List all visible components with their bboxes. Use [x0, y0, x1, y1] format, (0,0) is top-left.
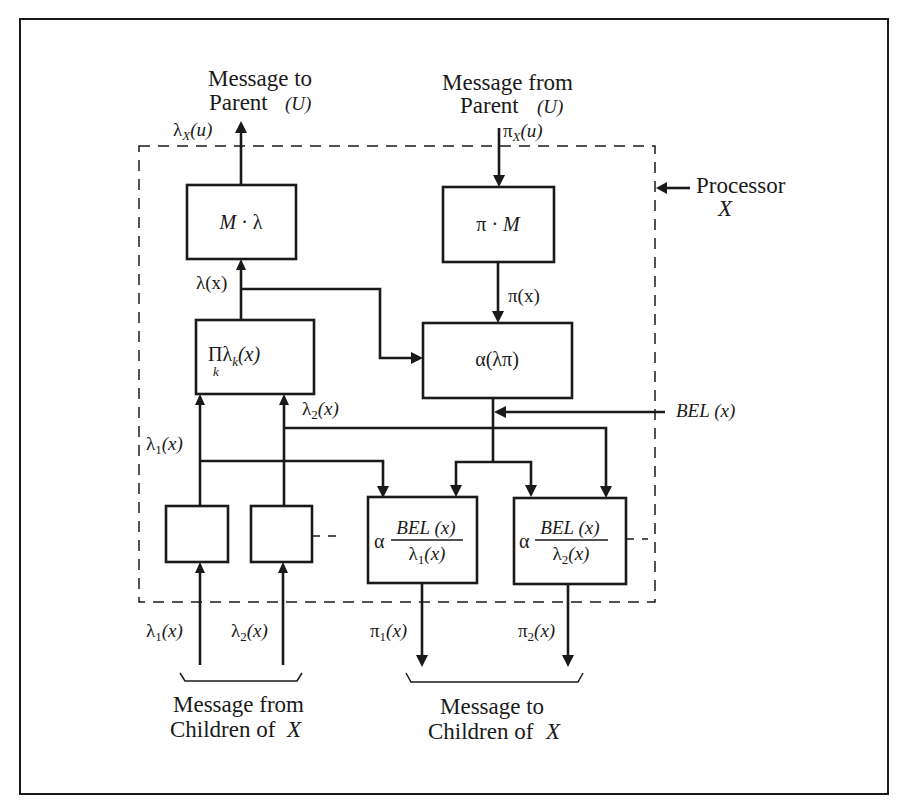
numerator: BEL (x) [540, 517, 599, 539]
alpha-symbol: α [374, 530, 385, 552]
pi-m-box: π · M [443, 187, 554, 262]
arrow-left-icon [494, 406, 506, 418]
denominator: λ2(x) [553, 543, 590, 567]
message-from-parent-header: Message from Parent (U) πX(u) [442, 70, 573, 144]
pi-m-text: π · M [476, 213, 521, 235]
arrow-up-icon [236, 259, 246, 270]
arrow-down-icon [525, 485, 537, 497]
arrow-right-icon [411, 352, 423, 364]
header-line2: Parent [460, 93, 519, 118]
alpha-symbol: α [519, 530, 530, 552]
header-var: (U) [285, 93, 311, 115]
product-index: k [213, 364, 219, 379]
processor-label-text: Processor [696, 173, 786, 198]
arrow-up-icon [279, 394, 289, 405]
header-line1: Message to [208, 66, 312, 91]
header-line1: Message from [442, 70, 573, 95]
arrow-up-icon [195, 394, 205, 405]
arrow-down-icon [492, 311, 504, 323]
product-box: Πλk(x) k [196, 320, 314, 394]
m-lambda-box: M · λ [187, 185, 296, 259]
alpha-lambda-pi-text: α(λπ) [475, 348, 519, 371]
arrow-left-icon [656, 182, 667, 194]
pi-x-u-label: πX(u) [503, 120, 543, 144]
message-to-children-caption: Message to Children of X [428, 694, 561, 744]
arrow-up-icon [195, 562, 205, 573]
processor-diagram: Processor X Message to Parent (U) λX(u) … [0, 0, 899, 807]
brace-children-input [180, 673, 302, 681]
arrow-down-icon [450, 485, 462, 497]
pi-x-label: π(x) [508, 285, 540, 307]
child1-input-box [166, 506, 228, 562]
message-from-children-caption: Message from Children of X [170, 692, 304, 742]
lambda1-inner-label: λ1(x) [146, 433, 183, 457]
lambda1-input-label: λ1(x) [146, 620, 183, 644]
lambda-x-label: λ(x) [196, 272, 227, 294]
pi1-output-label: π1(x) [370, 620, 407, 644]
caption-line1: Message to [440, 694, 544, 719]
caption-line2: Children of [170, 717, 276, 742]
m-lambda-text: M · λ [218, 211, 262, 233]
brace-children-output [406, 673, 583, 682]
child2-input-box [251, 506, 312, 562]
lambda2-input-label: λ2(x) [231, 620, 268, 644]
arrow-up-icon [235, 121, 247, 133]
lambda-x-u-label: λX(u) [173, 119, 212, 143]
arrow-down-icon [493, 175, 505, 187]
outer-frame [20, 19, 888, 794]
arrow-down-icon [562, 655, 574, 667]
pi2-output-label: π2(x) [518, 620, 555, 644]
caption-line1: Message from [173, 692, 304, 717]
alpha-lambda-pi-box: α(λπ) [423, 323, 572, 398]
arrow-down-icon [600, 486, 612, 498]
denominator: λ1(x) [409, 543, 446, 567]
child1-output-box: α BEL (x) λ1(x) [368, 497, 477, 583]
header-line2: Parent [209, 90, 268, 115]
child2-output-box: α BEL (x) λ2(x) [514, 498, 626, 584]
processor-label: Processor X [656, 173, 786, 221]
header-var: (U) [537, 96, 563, 118]
caption-line2: Children of [428, 719, 534, 744]
lambda2-inner-label: λ2(x) [302, 398, 339, 422]
arrow-up-icon [278, 562, 288, 573]
numerator: BEL (x) [396, 517, 455, 539]
processor-label-var: X [717, 196, 733, 221]
caption-var: X [286, 717, 302, 742]
bel-x-label: BEL (x) [676, 400, 735, 422]
caption-var: X [545, 719, 561, 744]
arrow-down-icon [416, 655, 428, 667]
